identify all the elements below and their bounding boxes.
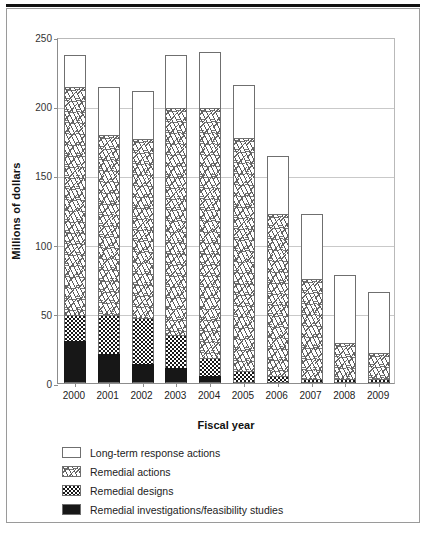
x-tick-label-2009: 2009 bbox=[358, 390, 398, 401]
y-tick-mark bbox=[54, 246, 58, 247]
bar-segment-2004-solid-black[interactable] bbox=[199, 376, 221, 383]
y-tick-mark bbox=[54, 39, 58, 40]
bar-segment-2000-diagonal-hatch[interactable] bbox=[64, 87, 86, 315]
bar-segment-2004-open-white[interactable] bbox=[199, 52, 221, 107]
bar-segment-2003-diagonal-hatch[interactable] bbox=[165, 108, 187, 335]
y-tick-mark bbox=[54, 385, 58, 386]
bar-segment-2002-solid-black[interactable] bbox=[132, 364, 154, 383]
y-axis-title: Millions of dollars bbox=[10, 38, 28, 384]
bar-segment-2003-solid-black[interactable] bbox=[165, 368, 187, 383]
bar-segment-2009-checkerboard[interactable] bbox=[368, 379, 390, 382]
bar-segment-2002-diagonal-hatch[interactable] bbox=[132, 139, 154, 318]
legend-swatch-open-white-icon bbox=[62, 447, 81, 458]
bar-segment-2000-open-white[interactable] bbox=[64, 55, 86, 87]
x-tick-mark bbox=[345, 383, 346, 387]
bar-segment-2003-checkerboard[interactable] bbox=[165, 335, 187, 368]
bar-2008[interactable] bbox=[334, 275, 356, 383]
bar-2006[interactable] bbox=[267, 156, 289, 383]
legend-swatch-diagonal-hatch-icon bbox=[62, 466, 81, 477]
bar-2002[interactable] bbox=[132, 91, 154, 383]
bar-segment-2002-open-white[interactable] bbox=[132, 91, 154, 139]
y-tick-label-0: 0 bbox=[46, 380, 52, 390]
bar-2000[interactable] bbox=[64, 55, 86, 383]
legend-label: Remedial designs bbox=[90, 485, 173, 497]
y-tick-label-150: 150 bbox=[35, 172, 52, 182]
top-rule bbox=[6, 4, 420, 7]
legend-item[interactable]: Long-term response actions bbox=[62, 443, 402, 462]
legend-swatch-checkerboard-icon bbox=[62, 485, 81, 496]
x-tick-mark bbox=[109, 383, 110, 387]
bar-segment-2001-solid-black[interactable] bbox=[98, 354, 120, 383]
x-axis-title: Fiscal year bbox=[57, 419, 395, 431]
x-tick-mark bbox=[176, 383, 177, 387]
bar-2003[interactable] bbox=[165, 55, 187, 383]
legend-item[interactable]: Remedial investigations/feasibility stud… bbox=[62, 500, 402, 519]
bar-segment-2007-open-white[interactable] bbox=[301, 214, 323, 279]
bar-2009[interactable] bbox=[368, 292, 390, 383]
x-tick-mark bbox=[210, 383, 211, 387]
x-tick-mark bbox=[244, 383, 245, 387]
bar-segment-2005-open-white[interactable] bbox=[233, 85, 255, 138]
bar-segment-2008-diagonal-hatch[interactable] bbox=[334, 343, 356, 379]
legend: Long-term response actionsRemedial actio… bbox=[62, 443, 402, 519]
bar-segment-2002-checkerboard[interactable] bbox=[132, 318, 154, 364]
legend-label: Remedial investigations/feasibility stud… bbox=[90, 504, 283, 516]
bar-segment-2004-checkerboard[interactable] bbox=[199, 358, 221, 376]
bar-segment-2000-checkerboard[interactable] bbox=[64, 315, 86, 341]
bar-segment-2007-diagonal-hatch[interactable] bbox=[301, 279, 323, 379]
bar-segment-2009-open-white[interactable] bbox=[368, 292, 390, 353]
bar-segment-2007-checkerboard[interactable] bbox=[301, 379, 323, 382]
bar-segment-2004-diagonal-hatch[interactable] bbox=[199, 108, 221, 359]
y-tick-label-50: 50 bbox=[41, 311, 52, 321]
x-tick-mark bbox=[75, 383, 76, 387]
legend-swatch-solid-black-icon bbox=[62, 504, 81, 515]
legend-label: Long-term response actions bbox=[90, 447, 220, 459]
bar-segment-2005-checkerboard[interactable] bbox=[233, 371, 255, 382]
x-tick-mark bbox=[278, 383, 279, 387]
bar-2007[interactable] bbox=[301, 214, 323, 383]
bar-segment-2000-solid-black[interactable] bbox=[64, 341, 86, 383]
bar-segment-2001-checkerboard[interactable] bbox=[98, 315, 120, 354]
x-tick-mark bbox=[379, 383, 380, 387]
bar-segment-2006-open-white[interactable] bbox=[267, 156, 289, 214]
y-tick-mark bbox=[54, 315, 58, 316]
bar-segment-2006-diagonal-hatch[interactable] bbox=[267, 214, 289, 376]
legend-label: Remedial actions bbox=[90, 466, 171, 478]
bar-segment-2006-checkerboard[interactable] bbox=[267, 376, 289, 382]
bar-segment-2008-open-white[interactable] bbox=[334, 275, 356, 343]
plot-area: 050100150200250 bbox=[57, 38, 395, 384]
bar-2005[interactable] bbox=[233, 85, 255, 383]
legend-item[interactable]: Remedial actions bbox=[62, 462, 402, 481]
legend-item[interactable]: Remedial designs bbox=[62, 481, 402, 500]
y-tick-label-250: 250 bbox=[35, 34, 52, 44]
bar-segment-2003-open-white[interactable] bbox=[165, 55, 187, 108]
y-tick-label-200: 200 bbox=[35, 103, 52, 113]
x-tick-mark bbox=[312, 383, 313, 387]
y-tick-label-100: 100 bbox=[35, 242, 52, 252]
bar-2001[interactable] bbox=[98, 87, 120, 383]
bar-segment-2001-open-white[interactable] bbox=[98, 87, 120, 135]
bar-segment-2008-checkerboard[interactable] bbox=[334, 379, 356, 382]
y-tick-mark bbox=[54, 108, 58, 109]
bar-2004[interactable] bbox=[199, 52, 221, 383]
bar-segment-2005-diagonal-hatch[interactable] bbox=[233, 138, 255, 371]
bar-segment-2009-diagonal-hatch[interactable] bbox=[368, 353, 390, 379]
bar-segment-2001-diagonal-hatch[interactable] bbox=[98, 135, 120, 315]
x-tick-mark bbox=[143, 383, 144, 387]
figure: Millions of dollars 050100150200250 Fisc… bbox=[0, 0, 427, 533]
y-tick-mark bbox=[54, 177, 58, 178]
